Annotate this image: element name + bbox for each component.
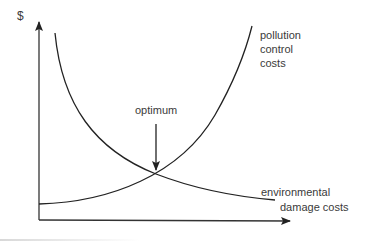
label-line: control [260, 42, 301, 56]
pollution-control-costs-label: pollution control costs [260, 28, 301, 70]
label-line: environmental [261, 185, 348, 200]
x-axis [39, 220, 290, 221]
label-line: pollution [260, 28, 301, 42]
y-axis-label: $ [17, 10, 24, 23]
label-line: costs [260, 56, 301, 70]
label-line: damage costs [261, 200, 348, 215]
optimum-label: optimum [135, 104, 177, 117]
environmental-damage-costs-label: environmental damage costs [261, 185, 348, 215]
